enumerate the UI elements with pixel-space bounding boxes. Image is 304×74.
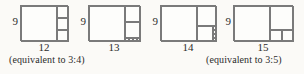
unit-square <box>125 6 141 22</box>
height-label: 9 <box>221 16 231 27</box>
figure-rectangle-13-by-9: 9 13 <box>88 0 140 60</box>
unit-square <box>57 30 69 42</box>
unit-square <box>21 6 57 42</box>
unit-square <box>234 6 270 42</box>
unit-square <box>57 18 69 30</box>
width-label: 15 <box>233 42 293 53</box>
height-label: 9 <box>8 16 18 27</box>
rectangle-outline <box>233 5 293 41</box>
unit-square <box>197 26 213 42</box>
caption-equivalent-3-4: (equivalent to 3:4) <box>9 54 85 65</box>
caption-equivalent-3-5: (equivalent to 3:5) <box>206 54 282 65</box>
width-label: 13 <box>88 42 140 53</box>
unit-square <box>125 22 141 38</box>
unit-square <box>89 6 125 42</box>
figure-rectangle-15-by-9: 9 15 <box>233 0 293 60</box>
unit-square <box>270 30 282 42</box>
unit-square <box>161 6 197 42</box>
figure-rectangle-14-by-9: 9 14 <box>160 0 216 60</box>
diagram-sheet: 9 12 9 13 9 14 9 15 (equivalent to 3:4) … <box>0 0 304 74</box>
unit-square <box>57 6 69 18</box>
figure-rectangle-12-by-9: 9 12 <box>20 0 68 60</box>
unit-square <box>197 6 217 26</box>
unit-square <box>270 6 294 30</box>
height-label: 9 <box>148 16 158 27</box>
width-label: 14 <box>160 42 216 53</box>
rectangle-outline <box>88 5 140 41</box>
unit-square <box>282 30 294 42</box>
rectangle-outline <box>160 5 216 41</box>
width-label: 12 <box>20 42 68 53</box>
height-label: 9 <box>76 16 86 27</box>
rectangle-outline <box>20 5 68 41</box>
